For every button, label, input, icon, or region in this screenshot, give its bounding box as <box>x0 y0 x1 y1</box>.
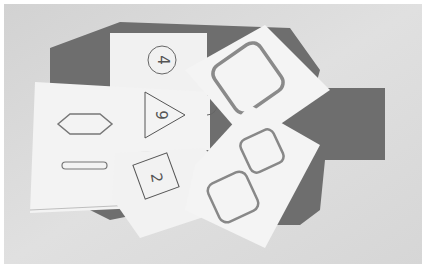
triangle-number: 9 <box>152 110 170 120</box>
photo-frame: 4 9 2 <box>0 0 426 268</box>
photo-scene: 4 9 2 <box>0 0 426 268</box>
circle-number: 4 <box>154 55 172 65</box>
